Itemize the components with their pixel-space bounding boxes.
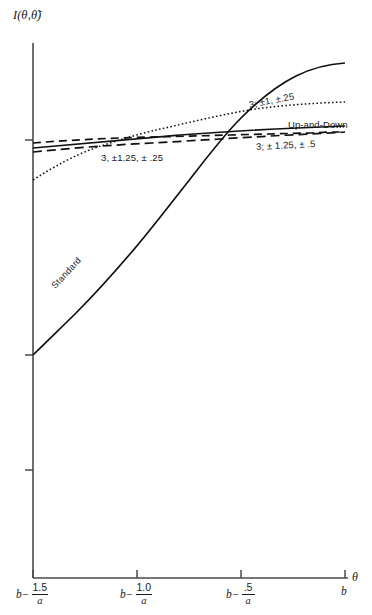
x-tick-label-2: b− .5 a — [226, 582, 255, 606]
x-tick-label-0-numerator: 1.5 — [32, 582, 49, 593]
curve-standard — [33, 63, 345, 355]
x-tick-label-2-denominator: a — [244, 596, 251, 607]
x-tick-label-1-numerator: 1.0 — [136, 582, 153, 593]
x-tick-label-3-lead: b — [341, 585, 347, 597]
x-tick-label-0-fraction: 1.5 a — [32, 582, 49, 606]
x-tick-label-2-numerator: .5 — [243, 582, 254, 593]
x-tick-label-2-lead: b− — [226, 588, 240, 600]
curve-label-up-and-down: Up-and-Down — [288, 119, 348, 130]
curve-label-dashed-mid: 3, ±1.25, ± .25 — [101, 152, 163, 163]
plot-canvas — [0, 0, 372, 615]
x-tick-label-1: b− 1.0 a — [120, 582, 152, 606]
information-function-chart: I(θ,θ̃) θ 3; ±1, ±.25 Up-and-Down 3; ± 1… — [0, 0, 372, 615]
x-tick-label-0: b− 1.5 a — [16, 582, 48, 606]
x-tick-label-1-lead: b− — [120, 588, 134, 600]
x-tick-label-2-fraction: .5 a — [242, 582, 255, 606]
x-tick-label-0-lead: b− — [16, 588, 30, 600]
x-tick-label-1-denominator: a — [140, 596, 147, 607]
x-tick-label-1-fraction: 1.0 a — [136, 582, 153, 606]
x-tick-label-3: b — [341, 585, 348, 597]
x-tick-label-0-denominator: a — [36, 596, 43, 607]
